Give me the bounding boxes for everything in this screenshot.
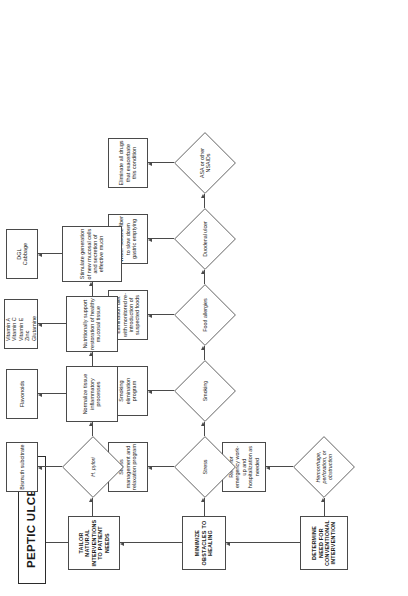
decision-hemorrhage[interactable]: Hemorrhage, perforation, or obstruction bbox=[293, 436, 355, 498]
arrow-duodenal-ulcer-to-nsaids bbox=[201, 194, 205, 198]
treatment-flavonoids[interactable]: Flavonoids bbox=[6, 369, 38, 419]
decision-stress-label: Stress bbox=[174, 436, 236, 498]
arrow-minimize-to-stress bbox=[201, 498, 205, 502]
connector-determine-to-minimize bbox=[226, 542, 300, 543]
diagram-rotated-group: PEPTIC ULCERS DETERMINE NEED FOR CONVENT… bbox=[0, 0, 408, 596]
connector-tailor-to-title bbox=[46, 542, 68, 543]
arrow-smoking-to-food-allergies bbox=[201, 346, 205, 350]
decision-stress[interactable]: Stress bbox=[174, 436, 236, 498]
arrow-stress-to-smoking bbox=[201, 422, 205, 426]
treatment-bismuth-subcitrate[interactable]: Bismuth subcitrate bbox=[6, 442, 38, 492]
stage-box-tailor[interactable]: TAILOR NATURAL INTERVENTIONS TO PATIENT … bbox=[68, 516, 120, 570]
arrow-goal-stimulate-to-dgl bbox=[38, 253, 42, 257]
arrow-duodenal-ulcer-to-action bbox=[148, 238, 152, 242]
arrow-hemorrhage-to-refer bbox=[266, 466, 270, 470]
action-eliminate-drugs[interactable]: Eliminate all drugs that exacerbate this… bbox=[108, 138, 148, 188]
arrow-goal-nutrition-to-goal-stimulate bbox=[89, 282, 93, 286]
decision-h-pylori-label: H. pylori bbox=[62, 436, 124, 498]
goal-nutritional-support[interactable]: Nutritionally support restoration of hea… bbox=[66, 296, 118, 352]
decision-duodenal-ulcer[interactable]: Duodenal ulcer bbox=[174, 208, 236, 270]
diagram-canvas: PEPTIC ULCERS DETERMINE NEED FOR CONVENT… bbox=[0, 0, 408, 596]
decision-asa-nsaids[interactable]: ASA or other NSAIDs bbox=[174, 132, 236, 194]
goal-stimulate-mucosal-regeneration[interactable]: Stimulate generation of new mucosal cell… bbox=[62, 226, 122, 282]
arrow-food-allergies-to-duodenal-ulcer bbox=[201, 270, 205, 274]
decision-smoking[interactable]: Smoking bbox=[174, 360, 236, 422]
decision-duodenal-ulcer-label: Duodenal ulcer bbox=[174, 208, 236, 270]
arrow-smoking-to-action bbox=[148, 390, 152, 394]
decision-hemorrhage-label: Hemorrhage, perforation, or obstruction bbox=[293, 436, 355, 498]
arrow-goal-nutrition-to-vitamins bbox=[38, 323, 42, 327]
decision-smoking-label: Smoking bbox=[174, 360, 236, 422]
arrow-determine-to-hemorrhage bbox=[321, 498, 325, 502]
decision-h-pylori[interactable]: H. pylori bbox=[62, 436, 124, 498]
stage-box-determine[interactable]: DETERMINE NEED FOR CONVENTIONAL INTERVEN… bbox=[300, 516, 348, 570]
connector-goal-normalize-to-flavonoids bbox=[38, 393, 66, 394]
arrow-h-pylori-to-goal-normalize bbox=[89, 422, 93, 426]
connector-goal-nutrition-to-vitamins bbox=[38, 323, 66, 324]
arrow-nsaids-to-action bbox=[148, 162, 152, 166]
arrow-stress-to-action bbox=[148, 466, 152, 470]
decision-food-allergies[interactable]: Food allergies bbox=[174, 284, 236, 346]
connector-hemorrhage-to-refer bbox=[266, 466, 293, 467]
arrow-determine-to-minimize bbox=[226, 542, 230, 546]
decision-asa-nsaids-label: ASA or other NSAIDs bbox=[174, 132, 236, 194]
arrow-h-pylori-to-bismuth bbox=[38, 466, 42, 470]
decision-food-allergies-label: Food allergies bbox=[174, 284, 236, 346]
connector-minimize-to-tailor bbox=[120, 542, 182, 543]
arrow-food-allergies-to-action bbox=[148, 314, 152, 318]
stage-box-minimize[interactable]: MINIMIZE OBSTACLES TO HEALING bbox=[182, 516, 226, 570]
treatment-vitamins-zinc-glutamine[interactable]: Vitamin A Vitamin C Vitamin E Zinc Gluta… bbox=[4, 299, 38, 349]
goal-normalize-inflammation[interactable]: Normalize tissue inflammatory processes bbox=[66, 366, 118, 422]
arrow-goal-normalize-to-goal-nutrition bbox=[89, 352, 93, 356]
arrow-goal-normalize-to-flavonoids bbox=[38, 393, 42, 397]
treatment-dgl-cabbage[interactable]: DGL Cabbage bbox=[6, 229, 38, 279]
arrow-minimize-to-tailor bbox=[120, 542, 124, 546]
arrow-tailor-to-h-pylori bbox=[89, 498, 93, 502]
